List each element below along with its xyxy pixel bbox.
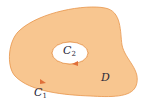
label-c1-subscript: 1	[42, 92, 46, 100]
label-c2-subscript: 2	[71, 50, 75, 58]
label-c2: C2	[63, 45, 76, 58]
label-c1: C1	[34, 87, 47, 100]
label-d: D	[101, 72, 110, 83]
